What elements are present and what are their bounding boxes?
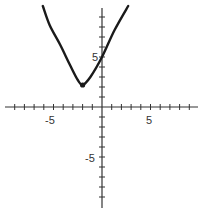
x-tick-label-neg5: -5 (45, 114, 55, 126)
x-tick-label-pos5: 5 (146, 114, 152, 126)
y-tick-label-neg5: -5 (85, 152, 95, 164)
y-tick-label-pos5: 5 (92, 51, 98, 63)
coordinate-plane: -5 5 5 -5 (0, 0, 205, 215)
parabola-curve (43, 6, 128, 85)
vertex-point (80, 82, 85, 87)
